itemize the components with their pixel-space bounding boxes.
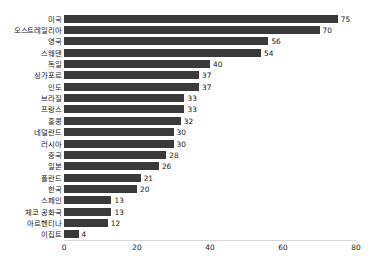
bar-row: 독일40 bbox=[0, 58, 377, 69]
bar-row: 러시아30 bbox=[0, 138, 377, 149]
category-label: 네덜란드 bbox=[34, 128, 62, 137]
bar-row: 브라질33 bbox=[0, 92, 377, 103]
bar-row: 일본26 bbox=[0, 161, 377, 172]
bar-row: 홍콩32 bbox=[0, 115, 377, 126]
category-label: 프랑스 bbox=[41, 105, 62, 114]
bar-row: 폴란드21 bbox=[0, 172, 377, 183]
category-label: 브라질 bbox=[41, 94, 62, 103]
category-label: 독일 bbox=[48, 60, 62, 69]
bar-value-label: 13 bbox=[114, 207, 123, 216]
bar-value-label: 30 bbox=[177, 139, 186, 148]
x-tick-label: 0 bbox=[62, 243, 67, 252]
category-label: 스페인 bbox=[41, 196, 62, 205]
bar bbox=[64, 230, 79, 238]
bar bbox=[64, 83, 199, 91]
bar-row: 싱가포르37 bbox=[0, 70, 377, 81]
bar-value-label: 12 bbox=[111, 218, 120, 227]
bar bbox=[64, 219, 108, 227]
bar bbox=[64, 117, 181, 125]
x-tick-label: 40 bbox=[205, 243, 214, 252]
bar bbox=[64, 37, 268, 45]
bar bbox=[64, 140, 174, 148]
bar-value-label: 4 bbox=[82, 230, 87, 239]
bar bbox=[64, 128, 174, 136]
category-label: 홍콩 bbox=[48, 116, 62, 125]
bar-chart: 미국75오스트레일리아70영국56스웨덴54독일40싱가포르37인도37브라질3… bbox=[0, 0, 377, 278]
x-tick-label: 60 bbox=[278, 243, 287, 252]
bar-row: 한국20 bbox=[0, 183, 377, 194]
bar bbox=[64, 174, 141, 182]
bar-row: 오스트레일리아70 bbox=[0, 24, 377, 35]
category-label: 체코 공화국 bbox=[25, 207, 62, 216]
bar-value-label: 54 bbox=[264, 48, 273, 57]
bar bbox=[64, 26, 320, 34]
bar-value-label: 37 bbox=[202, 82, 211, 91]
bar-row: 미국75 bbox=[0, 13, 377, 24]
bar-row: 영국56 bbox=[0, 36, 377, 47]
category-label: 이집트 bbox=[41, 230, 62, 239]
bar bbox=[64, 15, 338, 23]
bar-row: 스페인13 bbox=[0, 195, 377, 206]
bar bbox=[64, 71, 199, 79]
category-label: 싱가포르 bbox=[34, 71, 62, 80]
category-label: 아르헨티나 bbox=[27, 218, 62, 227]
bar bbox=[64, 105, 184, 113]
bar-value-label: 28 bbox=[169, 150, 178, 159]
bar-row: 체코 공화국13 bbox=[0, 206, 377, 217]
bar-value-label: 37 bbox=[202, 71, 211, 80]
bar-value-label: 56 bbox=[271, 37, 280, 46]
bar-value-label: 26 bbox=[162, 162, 171, 171]
plot-area: 미국75오스트레일리아70영국56스웨덴54독일40싱가포르37인도37브라질3… bbox=[0, 0, 377, 278]
category-label: 중국 bbox=[48, 150, 62, 159]
x-axis-line bbox=[64, 240, 356, 241]
bar-value-label: 33 bbox=[187, 105, 196, 114]
bar-row: 네덜란드30 bbox=[0, 127, 377, 138]
bar-row: 인도37 bbox=[0, 81, 377, 92]
category-label: 오스트레일리아 bbox=[14, 26, 62, 35]
bar-row: 아르헨티나12 bbox=[0, 217, 377, 228]
bar-row: 이집트4 bbox=[0, 229, 377, 240]
category-label: 인도 bbox=[48, 82, 62, 91]
bar bbox=[64, 185, 137, 193]
bar bbox=[64, 94, 184, 102]
bar bbox=[64, 196, 111, 204]
category-label: 폴란드 bbox=[41, 173, 62, 182]
bar bbox=[64, 49, 261, 57]
category-label: 일본 bbox=[48, 162, 62, 171]
category-label: 영국 bbox=[48, 37, 62, 46]
bar-value-label: 70 bbox=[323, 26, 332, 35]
bar-value-label: 75 bbox=[341, 14, 350, 23]
bar bbox=[64, 162, 159, 170]
bar-value-label: 20 bbox=[140, 184, 149, 193]
bar-value-label: 40 bbox=[213, 60, 222, 69]
x-tick-label: 80 bbox=[351, 243, 360, 252]
bar-value-label: 32 bbox=[184, 116, 193, 125]
x-tick-label: 20 bbox=[132, 243, 141, 252]
bar-value-label: 30 bbox=[177, 128, 186, 137]
bar-row: 중국28 bbox=[0, 149, 377, 160]
bar-value-label: 13 bbox=[114, 196, 123, 205]
bar bbox=[64, 208, 111, 216]
category-label: 미국 bbox=[48, 14, 62, 23]
bar-value-label: 21 bbox=[144, 173, 153, 182]
bar bbox=[64, 60, 210, 68]
bar-row: 프랑스33 bbox=[0, 104, 377, 115]
category-label: 스웨덴 bbox=[41, 48, 62, 57]
bar-value-label: 33 bbox=[187, 94, 196, 103]
bar bbox=[64, 151, 166, 159]
category-label: 러시아 bbox=[41, 139, 62, 148]
category-label: 한국 bbox=[48, 184, 62, 193]
bar-row: 스웨덴54 bbox=[0, 47, 377, 58]
